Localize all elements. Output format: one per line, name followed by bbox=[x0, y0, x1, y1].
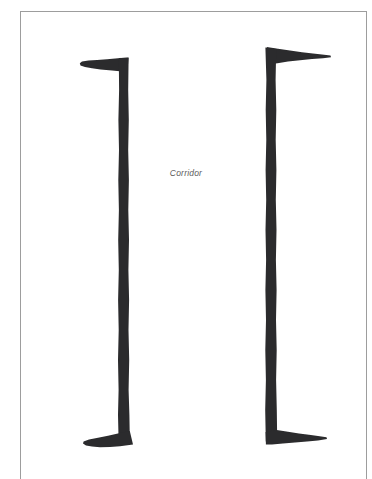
right-bracket-top-arm bbox=[267, 47, 331, 65]
corridor-diagram bbox=[0, 0, 372, 479]
right-bracket-bottom-arm bbox=[266, 430, 327, 445]
right-wall-bracket-ink bbox=[265, 47, 331, 445]
left-bracket-vertical bbox=[118, 58, 130, 441]
right-bracket-vertical bbox=[265, 47, 277, 441]
page-canvas: Corridor bbox=[0, 0, 372, 479]
corridor-label: Corridor bbox=[0, 168, 372, 178]
left-bracket-bottom-arm bbox=[83, 431, 133, 447]
left-wall-bracket-ink bbox=[80, 58, 133, 448]
